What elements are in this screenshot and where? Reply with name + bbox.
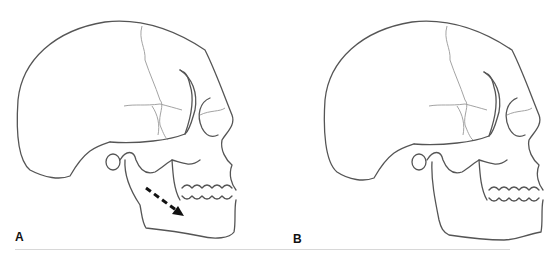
skull-illustration-b [279,0,558,250]
panel-b: B [279,0,558,250]
panel-label-a: A [15,230,24,244]
skull-illustration-a [0,0,279,250]
panel-label-b: B [293,232,302,246]
panel-a: A [0,0,279,250]
bottom-divider [15,249,510,250]
dashed-arrow-icon [146,188,184,216]
